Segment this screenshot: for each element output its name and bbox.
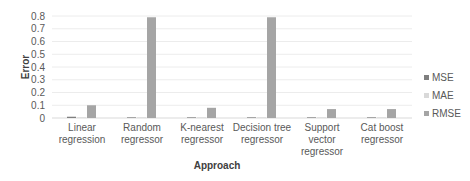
- bar-mse: [127, 117, 136, 118]
- bar-mae: [317, 117, 326, 118]
- bar-rmse: [387, 109, 396, 118]
- bar-mae: [257, 117, 266, 118]
- legend-swatch-rmse: [424, 111, 429, 116]
- legend-label-mae: MAE: [432, 90, 454, 101]
- bar-mse: [187, 117, 196, 118]
- x-axis-categories: LinearregressionRandomregressorK-nearest…: [59, 122, 404, 157]
- y-tick-label: 0.4: [31, 62, 45, 73]
- x-category-label: regressor: [121, 134, 164, 145]
- bar-mse: [247, 117, 256, 118]
- bar-mse: [367, 117, 376, 118]
- bar-mae: [197, 117, 206, 118]
- x-category-label: Decision tree: [233, 122, 292, 133]
- error-bar-chart: 00.10.20.30.40.50.60.70.8 Linearregressi…: [0, 0, 470, 181]
- bar-rmse: [267, 17, 276, 118]
- y-axis-ticks: 00.10.20.30.40.50.60.70.8: [31, 11, 45, 124]
- y-axis-title: Error: [20, 55, 31, 80]
- bar-rmse: [207, 108, 216, 118]
- y-tick-label: 0.5: [31, 49, 45, 60]
- bar-rmse: [87, 105, 96, 118]
- bar-mse: [67, 117, 76, 118]
- x-category-label: Linear: [68, 122, 96, 133]
- y-tick-label: 0.2: [31, 87, 45, 98]
- y-tick-label: 0.1: [31, 100, 45, 111]
- bar-mae: [137, 117, 146, 118]
- legend-label-rmse: RMSE: [432, 108, 461, 119]
- x-category-label: K-nearest: [180, 122, 224, 133]
- x-category-label: regressor: [241, 134, 284, 145]
- bar-rmse: [327, 109, 336, 118]
- bar-mse: [307, 117, 316, 118]
- x-category-label: vector: [308, 134, 336, 145]
- legend-swatch-mse: [424, 75, 429, 80]
- x-category-label: regressor: [181, 134, 224, 145]
- y-tick-label: 0.3: [31, 74, 45, 85]
- bars: [67, 17, 396, 118]
- x-category-label: Random: [123, 122, 161, 133]
- x-category-label: regressor: [361, 134, 404, 145]
- legend: MSEMAERMSE: [424, 72, 461, 119]
- y-tick-label: 0.7: [31, 23, 45, 34]
- bar-mae: [377, 117, 386, 118]
- bar-mae: [77, 117, 86, 118]
- y-tick-label: 0.8: [31, 11, 45, 22]
- x-category-label: Cat boost: [361, 122, 404, 133]
- legend-label-mse: MSE: [432, 72, 454, 83]
- gridlines: [52, 16, 412, 118]
- y-tick-label: 0: [39, 113, 45, 124]
- x-category-label: regressor: [301, 146, 344, 157]
- x-category-label: regression: [59, 134, 106, 145]
- bar-rmse: [147, 17, 156, 118]
- legend-swatch-mae: [424, 93, 429, 98]
- x-axis-title: Approach: [194, 160, 241, 171]
- x-category-label: Support: [304, 122, 339, 133]
- y-tick-label: 0.6: [31, 36, 45, 47]
